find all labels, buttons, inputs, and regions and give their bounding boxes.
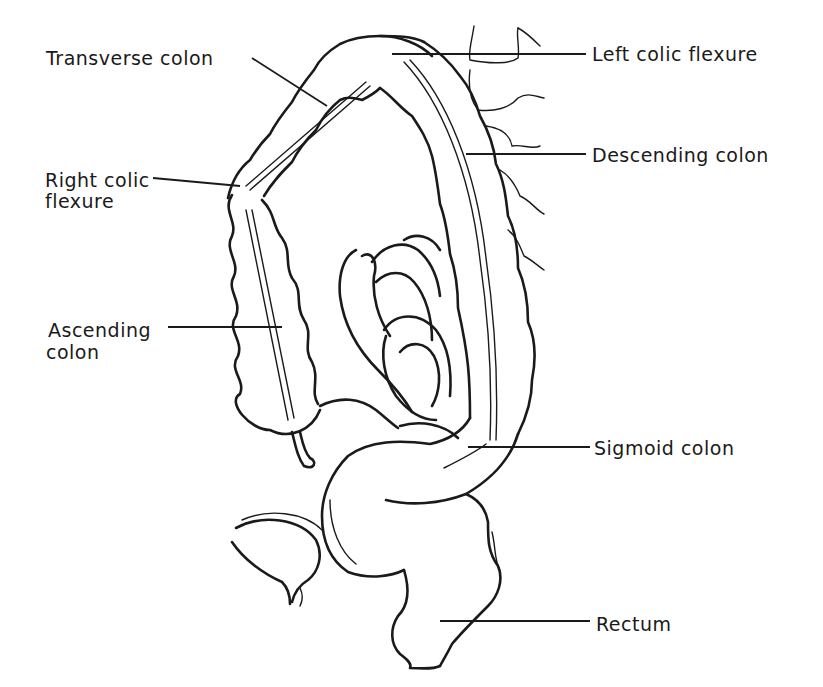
transverse-colon-shape xyxy=(228,36,432,198)
label-ascending-colon-line2: colon xyxy=(46,342,100,363)
rectum-shape xyxy=(392,494,500,669)
sigmoid-colon-shape xyxy=(322,418,518,576)
bladder-shape xyxy=(232,513,322,606)
label-transverse-colon: Transverse colon xyxy=(46,48,214,69)
label-right-colic-flexure-line2: flexure xyxy=(45,191,114,212)
colon-anatomy-diagram: Transverse colon Left colic flexure Righ… xyxy=(0,0,823,687)
label-left-colic-flexure: Left colic flexure xyxy=(592,44,758,65)
leader-lines xyxy=(153,54,590,621)
label-ascending-colon-line1: Ascending xyxy=(48,320,151,341)
label-right-colic-flexure-line1: Right colic xyxy=(45,170,150,191)
ascending-colon-shape xyxy=(229,195,320,467)
colon-illustration xyxy=(0,0,823,687)
leader-right-colic-flexure xyxy=(153,178,240,186)
label-descending-colon: Descending colon xyxy=(592,145,769,166)
label-sigmoid-colon: Sigmoid colon xyxy=(594,438,734,459)
small-intestine-loops xyxy=(320,236,450,428)
vertebrae-sketch xyxy=(469,26,544,270)
label-rectum: Rectum xyxy=(596,614,671,635)
